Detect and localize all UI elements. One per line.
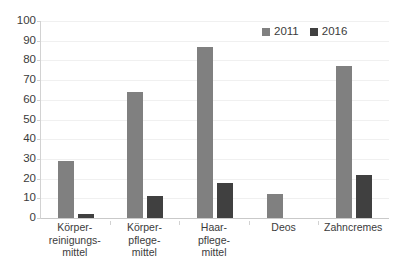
x-axis-label-line: mittel bbox=[40, 246, 110, 259]
x-axis-label-line: pflege- bbox=[110, 234, 180, 247]
legend-entry-2016[interactable]: 2016 bbox=[310, 26, 348, 38]
x-axis-category-label: Körper-pflege-mittel bbox=[110, 221, 180, 259]
legend-label: 2016 bbox=[322, 26, 348, 38]
y-axis-tick-label: 70 bbox=[23, 74, 36, 86]
x-axis-label-line: Deos bbox=[249, 221, 319, 234]
x-axis-label-line: reinigungs- bbox=[40, 234, 110, 247]
x-axis-label-line: mittel bbox=[110, 246, 180, 259]
bar-2016[interactable] bbox=[356, 175, 372, 218]
y-axis-tick-label: 50 bbox=[23, 114, 36, 126]
x-axis-label-line: mittel bbox=[179, 246, 249, 259]
bar-2011[interactable] bbox=[58, 161, 74, 218]
x-tick-mark bbox=[318, 221, 319, 225]
x-axis-label-line: Zahncremes bbox=[318, 221, 388, 234]
x-axis-category-label: Haar-pflege-mittel bbox=[179, 221, 249, 259]
chart-legend: 20112016 bbox=[262, 26, 347, 38]
x-axis-label-line: Körper- bbox=[40, 221, 110, 234]
legend-swatch-icon bbox=[310, 28, 318, 36]
bar-2011[interactable] bbox=[267, 194, 283, 218]
y-axis-tick-label: 10 bbox=[23, 193, 36, 205]
x-axis-category-label: Zahncremes bbox=[318, 221, 388, 259]
x-axis-label-line: Körper- bbox=[110, 221, 180, 234]
bar-group bbox=[41, 21, 111, 218]
x-tick-mark bbox=[179, 221, 180, 225]
bar-group bbox=[111, 21, 181, 218]
bar-group bbox=[180, 21, 250, 218]
y-axis-tick-label: 60 bbox=[23, 94, 36, 106]
bar-2011[interactable] bbox=[336, 66, 352, 218]
legend-swatch-icon bbox=[262, 28, 270, 36]
x-axis-category-label: Körper-reinigungs-mittel bbox=[40, 221, 110, 259]
bar-2011[interactable] bbox=[197, 47, 213, 218]
bar-chart: 20112016 0102030405060708090100 Körper-r… bbox=[0, 0, 394, 279]
bars-container bbox=[41, 21, 389, 218]
y-axis-tick-label: 90 bbox=[23, 35, 36, 47]
legend-entry-2011[interactable]: 2011 bbox=[262, 26, 299, 38]
bar-2011[interactable] bbox=[127, 92, 143, 218]
y-axis-tick-label: 0 bbox=[30, 212, 36, 224]
bar-2016[interactable] bbox=[217, 183, 233, 218]
y-axis-tick-label: 20 bbox=[23, 173, 36, 185]
x-tick-mark bbox=[110, 221, 111, 225]
bar-group bbox=[319, 21, 389, 218]
legend-label: 2011 bbox=[274, 26, 299, 38]
y-axis-tick-label: 40 bbox=[23, 133, 36, 145]
x-axis-labels: Körper-reinigungs-mittelKörper-pflege-mi… bbox=[40, 221, 388, 259]
plot-area: 0102030405060708090100 bbox=[40, 21, 389, 219]
bar-group bbox=[250, 21, 320, 218]
x-axis-label-line: pflege- bbox=[179, 234, 249, 247]
bar-2016[interactable] bbox=[78, 214, 94, 218]
y-tick-mark bbox=[37, 218, 41, 219]
y-axis-tick-label: 30 bbox=[23, 153, 36, 165]
y-axis-tick-label: 100 bbox=[17, 15, 36, 27]
x-axis-label-line: Haar- bbox=[179, 221, 249, 234]
x-axis-category-label: Deos bbox=[249, 221, 319, 259]
x-tick-mark bbox=[249, 221, 250, 225]
bar-2016[interactable] bbox=[147, 196, 163, 218]
y-axis-tick-label: 80 bbox=[23, 55, 36, 67]
